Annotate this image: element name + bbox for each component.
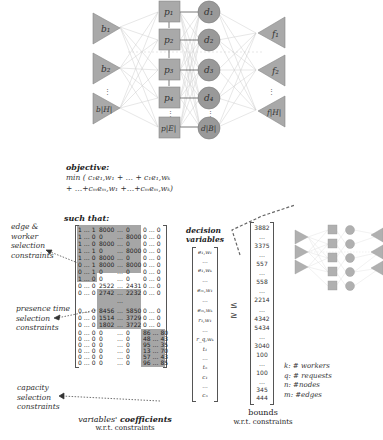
matrix-row: 1 … 08000…00 … 0 — [75, 240, 167, 247]
legend-item: m: #edges — [284, 391, 332, 401]
bounds-caption-sub: w.r.t. constraints — [228, 418, 298, 426]
matrix-row: 0 … 02742…22320 … 0 — [75, 289, 167, 296]
variable-legend: k: # workers q: # requests n: #nodes m: … — [284, 362, 332, 400]
bounds-caption: bounds — [228, 408, 298, 417]
coefficients-matrix: 1 … 18000…00 … 0 1 … 00…80000 … 0 1 … 08… — [75, 225, 167, 367]
network-thumbnail — [270, 222, 383, 302]
coefficients-caption-sub: w.r.t. constraints — [70, 424, 180, 432]
matrix-row: … — [75, 297, 167, 304]
legend-item: q: # requests — [284, 372, 332, 382]
decision-variables-vector: e₁,w₁ … e₁,wₖ … eₘ,w₁ … eₘ,wₖ r₁,w₁ … r_… — [192, 247, 218, 401]
matrix-row: 1 … 18000…00 … 0 — [75, 226, 167, 233]
matrix-row: 0 … 18000…80000 … 0 — [75, 261, 167, 268]
matrix-row: 0 … 10…00 … 0 — [75, 268, 167, 275]
matrix-row: 0 … 08456…58500 … 0 — [75, 307, 167, 314]
legend-item: k: # workers — [284, 362, 332, 372]
matrix-row: 0 … 00…096 … 85 — [75, 359, 167, 366]
matrix-row: 1 … 00…00 … 0 — [75, 275, 167, 282]
matrix-row: 1 … 08000…00 … 0 — [75, 254, 167, 261]
greater-equal-sign: ≥ — [230, 310, 238, 320]
matrix-row: 0 … 01802…37220 … 0 — [75, 321, 167, 328]
decision-variables-title: decision variables — [186, 226, 224, 244]
coefficients-caption: variables' coefficients — [70, 414, 180, 424]
less-equal-sign: ≤ — [230, 300, 238, 310]
matrix-row: 0 … 01514…37290 … 0 — [75, 314, 167, 321]
matrix-row: 0 … 02522…24310 … 0 — [75, 282, 167, 289]
legend-item: n: #nodes — [284, 381, 332, 391]
matrix-row: 1 … 10…80000 … 0 — [75, 247, 167, 254]
matrix-row: 1 … 00…80000 … 0 — [75, 233, 167, 240]
